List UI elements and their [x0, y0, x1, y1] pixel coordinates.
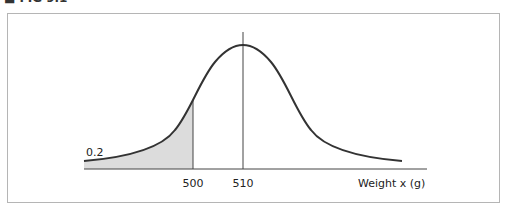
x-tick-500: 500	[183, 177, 204, 190]
x-tick-510: 510	[233, 177, 254, 190]
x-axis-label: Weight x (g)	[358, 177, 425, 190]
tail-area-label: 0.2	[86, 146, 104, 159]
normal-distribution-chart: 0.2 500 510 Weight x (g)	[0, 0, 509, 213]
